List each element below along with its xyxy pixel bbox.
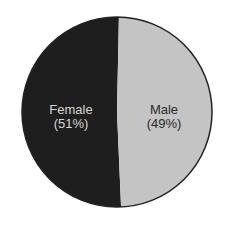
label-male: Male (150, 102, 178, 117)
label-female-pct: (51%) (54, 116, 89, 131)
label-female: Female (49, 102, 92, 117)
pie-chart: Female (51%) Male (49%) (0, 0, 231, 236)
label-male-pct: (49%) (147, 116, 182, 131)
